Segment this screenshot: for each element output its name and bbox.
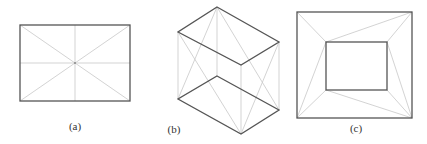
panel-b-guides: [178, 7, 279, 134]
panel-c-inner-rect: [326, 42, 387, 90]
panel-a-label: (a): [69, 120, 81, 132]
panel-b-prism: [178, 7, 279, 134]
panel-c-label: (c): [350, 122, 362, 134]
figure-canvas: (a) (b) (c): [0, 0, 427, 144]
panel-a-center-point: [74, 62, 76, 64]
figure-svg: [0, 0, 427, 144]
panel-c-guides: [297, 12, 412, 118]
panel-b-label: (b): [168, 123, 181, 135]
panel-c-nested-rectangles: [297, 12, 412, 118]
panel-a-rectangle: [20, 25, 130, 101]
